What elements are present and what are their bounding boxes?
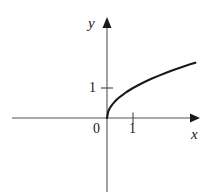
graph-figure: y x 0 1 1: [0, 0, 218, 192]
y-axis-label: y: [88, 16, 95, 31]
x-axis-arrowhead: [190, 114, 200, 123]
origin-label: 0: [93, 122, 100, 136]
plot-canvas: [0, 0, 218, 192]
y-axis-arrowhead: [103, 17, 112, 28]
x-axis-label: x: [191, 127, 198, 142]
x-tick-label-1: 1: [129, 122, 136, 136]
sqrt-curve: [107, 63, 195, 118]
y-tick-label-1: 1: [89, 81, 96, 95]
